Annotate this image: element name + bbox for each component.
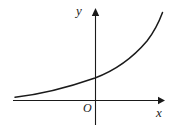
x-axis-arrowhead: [158, 97, 165, 104]
exponential-graph-figure: y x O: [0, 0, 179, 132]
x-axis-label: x: [156, 106, 162, 119]
y-axis-label: y: [76, 4, 82, 17]
y-axis: [92, 8, 99, 125]
origin-label: O: [83, 102, 92, 114]
exponential-curve: [15, 13, 163, 98]
y-axis-arrowhead: [92, 8, 99, 16]
